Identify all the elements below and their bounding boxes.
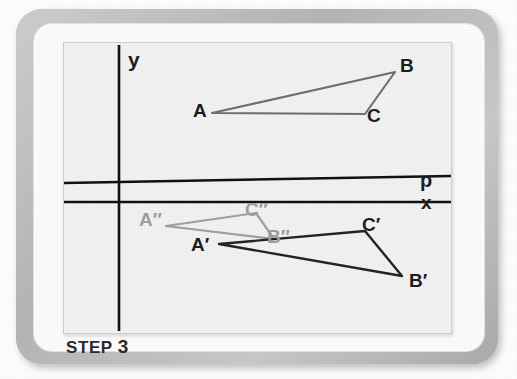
vertex-label-a-prime: A′ <box>191 235 209 254</box>
vertex-label-a: A <box>193 101 207 120</box>
scanned-figure-page: y p x A B C A′ B′ C′ A″ B″ C″ STEP 3 <box>0 0 517 379</box>
vertex-label-a-dblprime: A″ <box>139 210 162 229</box>
vertex-label-c-prime: C′ <box>362 215 380 234</box>
step-caption-word: STEP <box>66 338 113 357</box>
vertex-label-b-dblprime: B″ <box>267 227 290 246</box>
vertex-label-c-dblprime: C″ <box>245 200 268 219</box>
step-caption-number: 3 <box>118 336 129 357</box>
geometry-diagram-panel: y p x A B C A′ B′ C′ A″ B″ C″ <box>63 42 452 334</box>
line-p-label: p <box>420 170 432 190</box>
step-caption: STEP 3 <box>66 336 129 358</box>
geometry-diagram-svg <box>64 43 451 333</box>
vertex-label-b: B <box>400 56 414 75</box>
x-axis-label: x <box>421 193 432 212</box>
vertex-label-c: C <box>367 106 381 125</box>
line-p <box>64 176 451 183</box>
triangle-a1b1c1 <box>219 231 402 276</box>
y-axis-label: y <box>128 49 140 70</box>
vertex-label-b-prime: B′ <box>409 271 427 290</box>
